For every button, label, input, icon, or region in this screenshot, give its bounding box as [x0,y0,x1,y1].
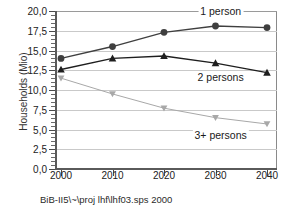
series-line-3-persons [61,78,267,124]
x-axis-label: 2010 [101,170,123,181]
y-axis-label: 17,5 [28,25,47,36]
y-axis-label: 15,0 [28,45,47,56]
series-label-3-persons: 3+ persons [193,129,249,141]
data-point-marker [109,43,116,50]
plot-area: 0,02,55,07,510,012,515,017,520,0 1 perso… [55,11,277,169]
y-axis-label: 7,5 [33,104,47,115]
y-axis-label: 0,0 [33,164,47,175]
y-axis-label: 20,0 [28,6,47,17]
data-point-marker [58,55,65,62]
chart-screenshot: Households (Mio) 0,02,55,07,510,012,515,… [0,0,296,212]
y-axis-label: 2,5 [33,144,47,155]
data-point-marker [161,29,168,36]
y-axis-label: 5,0 [33,124,47,135]
series-label-1-person: 1 person [198,5,243,17]
series-label-2-persons: 2 persons [196,71,246,83]
footer-source-text: BiB-II5\~\proj lhf\lhf03.sps 2000 [40,194,172,205]
x-axis-label: 2000 [50,170,72,181]
y-axis-label: 12,5 [28,65,47,76]
data-point-marker [264,121,271,127]
x-axis-label: 2040 [256,170,278,181]
x-axis-label: 2030 [204,170,226,181]
series-lines-and-markers [55,11,277,169]
y-axis-label: 10,0 [28,85,47,96]
data-point-marker [264,24,271,31]
data-point-marker [212,23,219,30]
x-axis-label: 2020 [153,170,175,181]
